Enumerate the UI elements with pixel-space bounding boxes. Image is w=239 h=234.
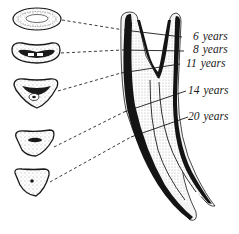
age-label-8-years: 8years: [193, 44, 228, 56]
age-label-6-years: 6years: [193, 31, 228, 43]
age-value: 6: [193, 30, 199, 42]
age-unit: years: [203, 30, 228, 42]
cross-section-8-years: [12, 43, 60, 63]
cross-section-11-years: [14, 79, 58, 108]
age-value: 8: [193, 43, 199, 55]
age-unit: years: [201, 57, 226, 69]
age-value: 20: [188, 110, 200, 122]
age-value: 14: [188, 84, 200, 96]
age-unit: years: [203, 43, 228, 55]
age-unit: years: [204, 110, 229, 122]
age-label-14-years: 14years: [188, 85, 228, 97]
cross-section-6-years: [13, 8, 61, 30]
age-label-11-years: 11years: [186, 58, 226, 70]
cross-section-14-years: [16, 130, 54, 156]
age-value: 11: [186, 57, 197, 69]
leader-lines: [50, 20, 131, 182]
age-label-20-years: 20years: [188, 111, 228, 123]
age-unit: years: [204, 84, 229, 96]
cross-section-20-years: [15, 169, 49, 196]
